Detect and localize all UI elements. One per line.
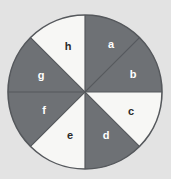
sector-label-e: e xyxy=(67,129,73,141)
sector-label-f: f xyxy=(42,104,46,116)
sector-label-c: c xyxy=(128,105,134,117)
sector-label-g: g xyxy=(38,69,45,81)
sector-label-h: h xyxy=(65,40,72,52)
spinner-chart[interactable]: a b c d e f g h xyxy=(0,0,171,179)
sector-label-a: a xyxy=(108,38,115,50)
sector-label-b: b xyxy=(130,68,137,80)
spinner-figure: a b c d e f g h xyxy=(0,0,171,179)
sector-label-d: d xyxy=(103,129,110,141)
